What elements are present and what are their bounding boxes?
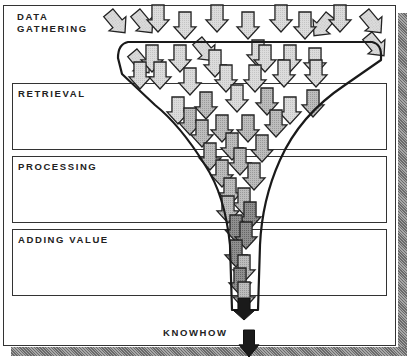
tilted-arrow-icon xyxy=(359,29,393,63)
down-arrow-icon xyxy=(195,92,217,119)
output-arrows xyxy=(233,298,259,357)
tilted-arrow-icon xyxy=(100,6,134,40)
down-arrow-icon xyxy=(206,5,228,32)
down-arrow-icon xyxy=(251,135,273,162)
incoming-arrows xyxy=(100,5,393,309)
down-arrow-icon xyxy=(237,12,259,39)
down-arrow-icon xyxy=(270,5,292,32)
down-arrow-icon xyxy=(179,68,201,95)
down-arrow-icon xyxy=(294,12,316,39)
down-arrow-icon xyxy=(174,12,196,39)
knowhow-arrow-icon xyxy=(239,330,259,357)
funnel-graphic xyxy=(0,0,411,359)
